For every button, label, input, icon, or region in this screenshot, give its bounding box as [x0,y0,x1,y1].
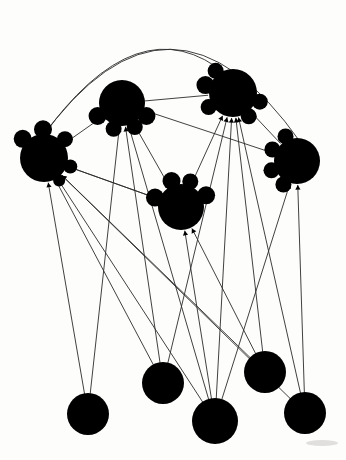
graph-edge [236,118,263,352]
node-core [192,398,238,444]
node-core [274,138,320,184]
graph-edge [144,95,208,101]
graph-edge [90,127,119,394]
leaf-node[interactable] [142,362,184,404]
graph-edge [298,185,305,393]
node-core [20,134,68,182]
page-smudge-mark [306,440,338,446]
node-core [67,393,109,435]
leaf-node[interactable] [284,392,326,434]
hub-node[interactable] [196,63,267,125]
node-core [158,184,204,230]
graph-edge [125,127,160,363]
graph-edge [216,118,231,399]
leaf-node[interactable] [67,393,109,435]
node-core [99,80,145,126]
hub-node[interactable] [89,80,156,137]
hub-node[interactable] [263,128,320,192]
graph-figure [0,0,346,460]
graph-edge [48,183,84,395]
leaf-node[interactable] [192,398,238,444]
leaf-node[interactable] [244,351,286,393]
node-core [244,351,286,393]
node-core [284,392,326,434]
node-core [209,69,257,117]
hub-node[interactable] [14,120,78,186]
graph-canvas [0,0,346,460]
graph-edge [56,180,154,365]
graph-edge [185,231,212,400]
node-core [142,362,184,404]
